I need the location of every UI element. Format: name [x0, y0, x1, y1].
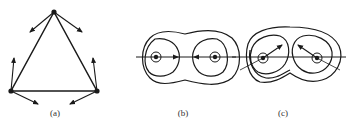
outer-streamline	[247, 27, 341, 83]
arrow-icon	[11, 91, 38, 104]
diagonal-line-right	[317, 58, 340, 70]
velocity-arrows-a	[11, 12, 97, 104]
panel-a: (a)	[8, 9, 99, 118]
panel-c: (c)	[232, 27, 346, 118]
arrow-icon	[263, 45, 282, 58]
panel-b: (b)	[136, 31, 240, 118]
panel-label-a: (a)	[50, 108, 60, 118]
arrow-icon	[70, 91, 97, 104]
inner-streamline-left	[250, 35, 288, 74]
panel-label-b: (b)	[178, 108, 189, 118]
diagonal-line-left	[240, 58, 263, 70]
arrow-right-icon	[173, 55, 179, 60]
arrow-left-icon	[193, 55, 199, 60]
arrow-icon	[30, 12, 54, 32]
vortex-diagram-figure: (a) (b) (c)	[0, 0, 346, 125]
arrow-icon	[54, 12, 82, 32]
panel-label-c: (c)	[278, 108, 288, 118]
vortex-triangle	[11, 12, 97, 91]
arrow-icon	[298, 45, 317, 58]
